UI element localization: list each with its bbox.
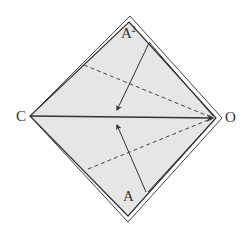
label-left-vertex: C xyxy=(16,109,26,124)
label-right-vertex: O xyxy=(225,110,236,125)
label-top-text: A xyxy=(121,25,132,41)
label-top-superscript: 2 xyxy=(132,25,136,34)
inner-diamond xyxy=(30,22,216,216)
label-top-vertex: A2 xyxy=(121,26,136,41)
label-bottom-vertex: A xyxy=(123,189,134,204)
